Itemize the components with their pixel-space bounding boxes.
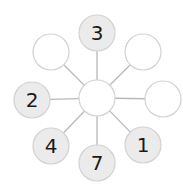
- circle-left[interactable]: 2: [14, 82, 50, 118]
- connector-line-lower-right: [110, 111, 131, 132]
- number-bond-diagram: 31742: [0, 0, 183, 192]
- connector-line-upper-left: [64, 65, 85, 86]
- node-circle[interactable]: [125, 34, 161, 70]
- node-number: 2: [26, 88, 39, 112]
- connector-line-upper-right: [110, 65, 131, 86]
- circle-lower-right[interactable]: 1: [125, 127, 161, 163]
- node-number: 3: [91, 21, 104, 45]
- node-circle[interactable]: [33, 34, 69, 70]
- circle-lower-left[interactable]: 4: [33, 128, 69, 164]
- node-number: 7: [91, 151, 104, 175]
- circle-bottom[interactable]: 7: [79, 145, 115, 181]
- node-circle[interactable]: [145, 81, 181, 117]
- circle-upper-left[interactable]: [33, 34, 69, 70]
- circle-upper-right[interactable]: [125, 34, 161, 70]
- circle-right[interactable]: [145, 81, 181, 117]
- center-circle[interactable]: [79, 80, 115, 116]
- connector-line-lower-left: [63, 111, 84, 133]
- node-number: 1: [137, 133, 150, 157]
- connector-line-left: [50, 99, 79, 100]
- circle-top[interactable]: 3: [79, 15, 115, 51]
- node-number: 4: [45, 134, 58, 158]
